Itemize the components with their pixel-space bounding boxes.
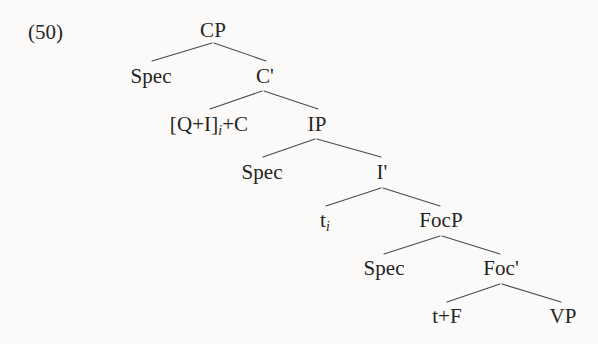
head-c-suffix: +C (222, 112, 248, 136)
node-vp-label: VP (549, 306, 576, 327)
node-trace-i-label: ti (320, 210, 330, 234)
branch-focp-spec (384, 236, 440, 254)
node-i-bar: I' (382, 162, 393, 183)
node-head-c-label: [Q+I]i+C (170, 114, 248, 138)
branch-focp-focbar (442, 236, 500, 254)
branch-ibar-focp (383, 188, 440, 206)
node-foc-bar: Foc' (501, 258, 537, 279)
node-spec-focp-label: Spec (363, 258, 404, 279)
node-foc-bar-label: Foc' (483, 258, 519, 279)
node-spec-cp: Spec (151, 66, 192, 87)
example-number: (50) (28, 22, 63, 43)
branch-focbar-tf (447, 284, 500, 302)
node-cp-label: CP (200, 20, 226, 41)
node-spec-ip-label: Spec (241, 162, 282, 183)
node-t-plus-f: t+F (447, 306, 477, 327)
node-ip-label: IP (308, 114, 327, 135)
node-spec-cp-label: Spec (130, 66, 171, 87)
branch-ip-ibar (317, 139, 381, 157)
node-trace-i: ti (325, 210, 335, 234)
node-vp: VP (563, 306, 590, 327)
node-focp-label: FocP (419, 210, 463, 231)
branch-cp-spec (152, 43, 212, 61)
node-c-bar: C' (265, 66, 283, 87)
branch-ip-spec (263, 139, 315, 157)
syntax-tree-figure: (50) CP Spec C' [Q+I]i+C IP Spec I' ti F… (0, 0, 598, 344)
trace-index: i (326, 219, 330, 234)
node-focp: FocP (441, 210, 485, 231)
node-cp: CP (213, 20, 239, 41)
node-t-plus-f-label: t+F (432, 306, 462, 327)
node-head-c: [Q+I]i+C (209, 114, 287, 138)
branch-cbar-head (210, 91, 262, 109)
head-c-bracket-text: [Q+I] (170, 112, 219, 136)
node-spec-ip: Spec (262, 162, 303, 183)
node-spec-focp: Spec (384, 258, 425, 279)
branch-cp-cbar (214, 43, 266, 61)
branch-focbar-vp (502, 284, 561, 302)
branch-cbar-ip (264, 91, 318, 109)
branch-ibar-trace (326, 188, 381, 206)
node-ip: IP (317, 114, 336, 135)
node-c-bar-label: C' (256, 66, 274, 87)
node-i-bar-label: I' (377, 162, 388, 183)
